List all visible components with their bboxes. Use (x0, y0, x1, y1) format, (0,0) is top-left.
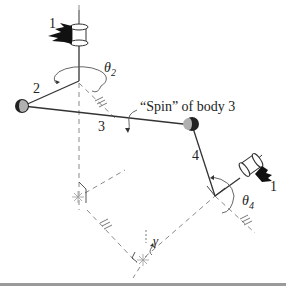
bottom-rule (0, 283, 286, 286)
label-link-4: 4 (192, 148, 199, 163)
spherical-joint-left (15, 99, 29, 113)
ground-joint-right (237, 152, 272, 182)
label-ground-top: 1 (49, 16, 56, 31)
node-marker-bottom (132, 230, 149, 266)
label-gamma: γ (153, 233, 159, 248)
label-theta4: θ4 (242, 193, 254, 211)
construction-lines (79, 5, 255, 278)
rssr-linkage-diagram: 1 2 3 4 1 θ2 θ4 γ “Spin” of body 3 (0, 0, 286, 287)
link-2 (23, 81, 79, 106)
label-link-2: 2 (33, 81, 40, 96)
label-link-3: 3 (98, 119, 105, 134)
spin-arrow-icon (125, 110, 137, 133)
theta4-arc (207, 175, 234, 213)
spherical-joint-right (183, 117, 199, 131)
spin-caption: “Spin” of body 3 (140, 99, 235, 114)
label-ground-right: 1 (270, 179, 277, 194)
